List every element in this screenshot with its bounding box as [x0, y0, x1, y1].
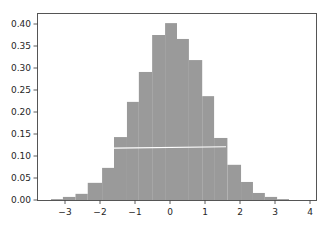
histogram-bar: [139, 72, 152, 200]
histogram-bar: [152, 35, 165, 200]
x-tick-label: 1: [202, 207, 208, 217]
y-tick-label: 0.20: [11, 107, 31, 117]
histogram-bar: [102, 168, 114, 200]
x-tick-label: 3: [272, 207, 278, 217]
histogram-bar: [76, 194, 88, 200]
y-tick-label: 0.15: [11, 129, 31, 139]
y-axis: 0.000.050.100.150.200.250.300.350.40: [11, 19, 38, 205]
x-tick-label: −3: [58, 207, 71, 217]
histogram-bar: [177, 39, 189, 200]
histogram-bar: [277, 199, 289, 200]
histogram-bar: [165, 23, 177, 200]
histogram-bar: [265, 197, 277, 200]
histogram-bar: [253, 193, 265, 200]
x-tick-label: −1: [128, 207, 141, 217]
histogram-bar: [241, 182, 253, 200]
x-tick-label: −2: [93, 207, 106, 217]
histogram-chart: −3−2−101234 0.000.050.100.150.200.250.30…: [0, 0, 330, 228]
histogram-bar: [51, 199, 63, 200]
histogram-bar: [88, 183, 102, 200]
x-tick-label: 2: [237, 207, 243, 217]
y-tick-label: 0.00: [11, 195, 31, 205]
y-tick-label: 0.40: [11, 19, 31, 29]
histogram-bar: [114, 137, 127, 200]
y-tick-label: 0.05: [11, 173, 31, 183]
y-tick-label: 0.10: [11, 151, 31, 161]
y-tick-label: 0.25: [11, 85, 31, 95]
x-axis: −3−2−101234: [58, 201, 313, 218]
y-tick-label: 0.35: [11, 41, 31, 51]
histogram-bar: [63, 197, 76, 200]
histogram-bar: [189, 60, 202, 200]
histogram-bar: [202, 96, 214, 200]
x-tick-label: 4: [307, 207, 313, 217]
histogram-bar: [227, 165, 241, 200]
y-tick-label: 0.30: [11, 63, 31, 73]
histogram-bar: [127, 102, 139, 200]
histogram-bars: [51, 23, 289, 200]
x-tick-label: 0: [167, 207, 173, 217]
